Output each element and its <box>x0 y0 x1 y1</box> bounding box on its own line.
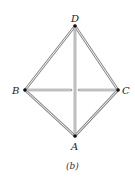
figure-caption: (b) <box>66 161 79 171</box>
vertex-d <box>73 24 77 28</box>
graph-diagram: D B C A (b) <box>0 0 135 182</box>
label-a: A <box>70 141 78 152</box>
edge-d-b <box>25 26 75 90</box>
label-d: D <box>70 13 79 24</box>
edge-c-a <box>75 90 118 136</box>
label-c: C <box>122 85 130 96</box>
edge-b-a <box>25 90 75 136</box>
vertex-b <box>23 88 27 92</box>
label-b: B <box>11 85 19 96</box>
vertex-c <box>116 88 120 92</box>
edge-d-c <box>75 26 118 90</box>
edges <box>25 26 118 136</box>
vertices <box>23 24 120 138</box>
vertex-a <box>73 134 77 138</box>
